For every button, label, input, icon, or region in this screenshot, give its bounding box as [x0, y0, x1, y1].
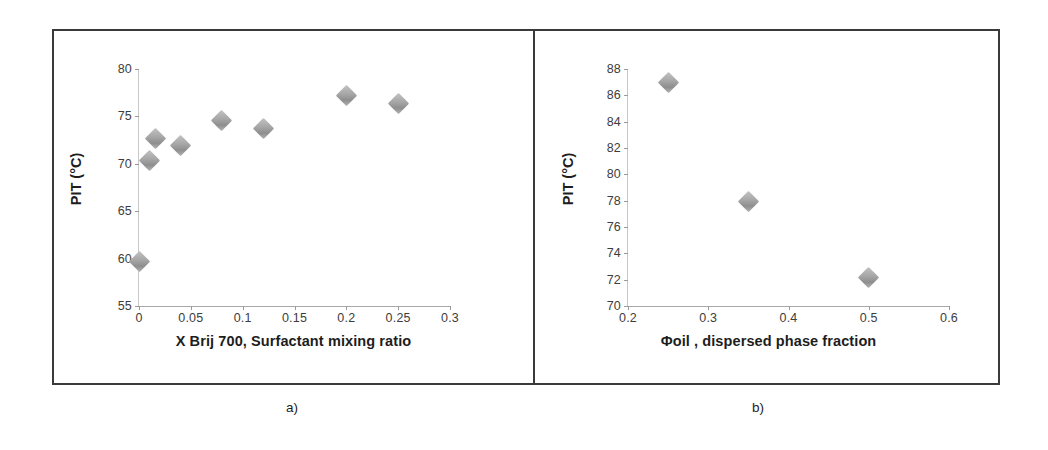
data-point-marker — [388, 93, 409, 114]
y-tick-mark — [624, 122, 628, 123]
y-tick-label-b: 76 — [607, 220, 621, 234]
x-tick-label-a: 0.2 — [337, 311, 355, 325]
y-tick-label-b: 86 — [607, 88, 621, 102]
x-tick-label-a: 0.1 — [234, 311, 252, 325]
data-point-marker — [858, 266, 879, 287]
y-tick-label-b: 72 — [607, 273, 621, 287]
y-tick-mark — [624, 201, 628, 202]
y-tick-mark — [135, 116, 139, 117]
figure-frame: PIT (°C) 55606570758000.050.10.150.20.25… — [52, 29, 1000, 385]
y-tick-mark — [135, 164, 139, 165]
y-axis-title-b: PIT (°C) — [560, 134, 576, 224]
x-tick-mark — [450, 306, 451, 310]
y-tick-label-b: 74 — [607, 246, 621, 260]
y-tick-label-a: 55 — [118, 299, 132, 313]
x-tick-mark — [628, 306, 629, 310]
y-tick-mark — [624, 69, 628, 70]
y-tick-label-b: 84 — [607, 115, 621, 129]
y-tick-mark — [624, 174, 628, 175]
y-tick-mark — [624, 227, 628, 228]
chart-panel-b: PIT (°C) 707274767880828486880.20.30.40.… — [535, 31, 1002, 383]
x-tick-mark — [191, 306, 192, 310]
x-tick-mark — [243, 306, 244, 310]
x-tick-label-a: 0.25 — [386, 311, 411, 325]
x-tick-mark — [398, 306, 399, 310]
y-tick-label-b: 82 — [607, 141, 621, 155]
y-tick-mark — [624, 280, 628, 281]
y-tick-mark — [624, 148, 628, 149]
y-tick-label-b: 88 — [607, 62, 621, 76]
y-tick-label-a: 75 — [118, 109, 132, 123]
x-tick-mark — [949, 306, 950, 310]
x-tick-mark — [708, 306, 709, 310]
y-tick-label-a: 65 — [118, 204, 132, 218]
x-tick-label-b: 0.4 — [780, 311, 798, 325]
y-tick-mark — [624, 253, 628, 254]
y-axis-title-a: PIT (°C) — [68, 134, 84, 224]
data-point-marker — [145, 128, 166, 149]
data-point-marker — [738, 191, 759, 212]
x-tick-label-b: 0.3 — [699, 311, 717, 325]
data-point-marker — [336, 85, 357, 106]
y-tick-label-a: 80 — [118, 62, 132, 76]
x-tick-mark — [789, 306, 790, 310]
y-tick-label-b: 78 — [607, 194, 621, 208]
x-axis-title-a: X Brij 700, Surfactant mixing ratio — [54, 333, 533, 349]
plot-area-a: 55606570758000.050.10.150.20.250.3 — [138, 69, 450, 307]
x-tick-label-a: 0.15 — [282, 311, 307, 325]
y-tick-label-b: 80 — [607, 167, 621, 181]
y-tick-label-a: 70 — [118, 157, 132, 171]
panel-caption-b: b) — [752, 400, 764, 415]
y-tick-mark — [624, 95, 628, 96]
x-tick-label-b: 0.2 — [619, 311, 637, 325]
y-tick-mark — [135, 69, 139, 70]
y-tick-mark — [135, 211, 139, 212]
x-axis-title-b: Φoil , dispersed phase fraction — [535, 333, 1002, 349]
x-tick-mark — [869, 306, 870, 310]
data-point-marker — [170, 135, 191, 156]
x-tick-mark — [139, 306, 140, 310]
panel-caption-a: a) — [286, 400, 298, 415]
x-tick-mark — [346, 306, 347, 310]
x-tick-label-a: 0.05 — [178, 311, 203, 325]
x-tick-label-b: 0.6 — [940, 311, 958, 325]
x-tick-label-b: 0.5 — [860, 311, 878, 325]
data-point-marker — [139, 149, 160, 170]
x-tick-label-a: 0.3 — [441, 311, 459, 325]
data-point-marker — [253, 118, 274, 139]
data-point-marker — [211, 110, 232, 131]
plot-area-b: 707274767880828486880.20.30.40.50.6 — [627, 69, 949, 307]
x-tick-label-a: 0 — [135, 311, 142, 325]
data-point-marker — [658, 72, 679, 93]
chart-panel-a: PIT (°C) 55606570758000.050.10.150.20.25… — [54, 31, 533, 383]
x-tick-mark — [295, 306, 296, 310]
